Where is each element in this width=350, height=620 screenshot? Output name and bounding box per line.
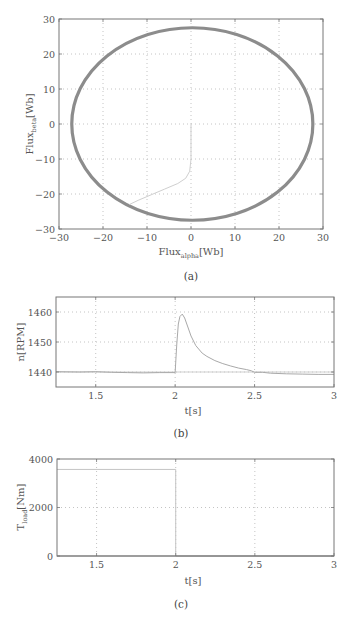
plot-a-flux-locus: −30−20−100102030−30−20−100102030 Fluxalp…: [24, 14, 329, 283]
plot-b-caption: (b): [174, 427, 189, 439]
x-tick-label: 0: [188, 232, 194, 243]
plot-a-ticks: −30−20−100102030−30−20−100102030: [35, 14, 329, 244]
y-tick-label: 0: [47, 551, 53, 562]
x-tick-label: 2.5: [247, 559, 262, 570]
plot-b-xlabel: t[s]: [185, 405, 202, 416]
y-tick-label: 20: [43, 49, 55, 60]
plot-c-ylabel: Tload[Nm]: [15, 484, 29, 531]
x-tick-label: 3: [331, 390, 337, 401]
x-tick-label: 10: [229, 232, 241, 243]
x-tick-label: 2: [172, 390, 178, 401]
plot-b-ylabel: n[RPM]: [15, 323, 26, 362]
series-startup-flux-trajectory: [129, 124, 191, 205]
plot-c-load-torque: 1.522.53020004000 t[s] Tload[Nm] (c): [15, 454, 337, 611]
y-tick-label: −10: [35, 154, 55, 165]
x-tick-label: 20: [273, 232, 285, 243]
plot-a-ylabel: Fluxbeta[Wb]: [24, 93, 38, 154]
y-tick-label: 0: [49, 119, 55, 130]
x-tick-label: 30: [317, 232, 329, 243]
plot-c-caption: (c): [174, 598, 188, 610]
y-tick-label: 1450: [28, 337, 52, 348]
plot-b-data: [56, 314, 334, 374]
y-tick-label: 4000: [29, 454, 53, 465]
x-tick-label: 1.5: [88, 390, 103, 401]
y-tick-label: −20: [35, 189, 55, 200]
y-tick-label: 10: [43, 84, 55, 95]
plot-c-ticks: 1.522.53020004000: [29, 454, 337, 571]
plot-b-speed: 1.522.53144014501460 t[s] n[RPM] (b): [15, 297, 337, 439]
plot-c-data: [57, 469, 334, 556]
plot-c-grid: [57, 459, 334, 556]
x-tick-label: −20: [93, 232, 113, 243]
x-tick-label: 2: [173, 559, 179, 570]
x-tick-label: 3: [331, 559, 337, 570]
series-load-torque: [57, 469, 334, 556]
plot-a-caption: (a): [184, 270, 198, 282]
y-tick-label: 30: [43, 14, 55, 25]
y-tick-label: 1460: [28, 307, 52, 318]
figure-canvas: −30−20−100102030−30−20−100102030 Fluxalp…: [0, 0, 350, 620]
plot-c-xlabel: t[s]: [185, 575, 202, 586]
plot-c-frame: [57, 459, 334, 556]
x-tick-label: −10: [137, 232, 157, 243]
x-tick-label: 2.5: [247, 390, 262, 401]
y-tick-label: −30: [35, 224, 55, 235]
y-tick-label: 2000: [29, 502, 53, 513]
plot-b-ticks: 1.522.53144014501460: [28, 297, 337, 401]
y-tick-label: 1440: [28, 367, 52, 378]
series-measured-speed: [56, 314, 334, 374]
x-tick-label: 1.5: [89, 559, 104, 570]
plot-a-xlabel: Fluxalpha[Wb]: [159, 246, 224, 260]
